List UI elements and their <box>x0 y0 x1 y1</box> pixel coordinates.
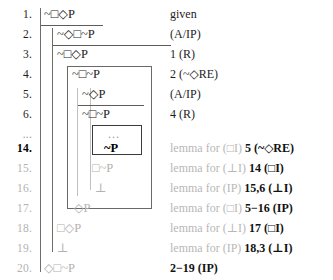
formula: ⊥ <box>95 178 107 198</box>
formula: ~◇P <box>82 84 105 104</box>
justification-lemma-label: lemma for (□I) <box>170 201 242 215</box>
proof-row: 3. ~□◇P 1 (R) <box>0 44 333 64</box>
justification-citation: 15,6 (⊥I) <box>244 181 292 195</box>
formula: □◇P <box>57 218 81 238</box>
justification: lemma for (⊥I) 17 (□I) <box>170 218 284 238</box>
justification: lemma for (⊥I) 14 (□I) <box>170 158 284 178</box>
proof-row: 18. □◇P lemma for (⊥I) 17 (□I) <box>0 218 333 238</box>
justification-citation: 14 (□I) <box>249 161 284 175</box>
line-number: 20. <box>0 258 32 278</box>
justification-citation: (A/IP) <box>170 27 201 41</box>
proof-row: 19. ⊥ lemma for (IP) 18,3 (⊥I) <box>0 238 333 258</box>
justification-citation: 17 (□I) <box>249 221 284 235</box>
line-number: 4. <box>0 64 32 84</box>
line-number: 3. <box>0 44 32 64</box>
proof-row: 1. ~□◇P given <box>0 4 333 24</box>
formula: ~◇□~P <box>57 24 95 44</box>
justification-citation: given <box>170 7 197 21</box>
justification: lemma for (□I) 5−16 (IP) <box>170 198 293 218</box>
proof-row: 16. ⊥ lemma for (IP) 15,6 (⊥I) <box>0 178 333 198</box>
justification-lemma-label: lemma for (⊥I) <box>170 161 246 175</box>
formula: ~□~P <box>72 64 100 84</box>
proof-row: 15. □~P lemma for (⊥I) 14 (□I) <box>0 158 333 178</box>
formula: ~P <box>104 138 118 158</box>
justification: lemma for (□I) 5 (~◇RE) <box>170 138 294 158</box>
justification-lemma-label: lemma for (IP) <box>170 181 241 195</box>
justification-citation: 4 (R) <box>170 107 195 121</box>
justification-citation: 1 (R) <box>170 47 195 61</box>
justification-citation: (A/IP) <box>170 87 201 101</box>
proof-row-highlighted: 14. ~P lemma for (□I) 5 (~◇RE) <box>0 138 333 158</box>
line-number: 5. <box>0 84 32 104</box>
line-number: 17. <box>0 198 32 218</box>
line-number: 18. <box>0 218 32 238</box>
justification-citation: 2−19 (IP) <box>170 261 218 275</box>
justification: 2−19 (IP) <box>170 258 218 278</box>
justification: 4 (R) <box>170 104 195 124</box>
line-number: 15. <box>0 158 32 178</box>
proof-row: 17. ◇P lemma for (□I) 5−16 (IP) <box>0 198 333 218</box>
justification-lemma-label: lemma for (⊥I) <box>170 221 246 235</box>
line-number: 2. <box>0 24 32 44</box>
formula: ~□~P <box>82 104 110 124</box>
formula: ◇□~P <box>44 258 75 278</box>
formula: ⊥ <box>57 238 69 258</box>
proof-diagram: 1. ~□◇P given 2. ~◇□~P (A/IP) 3. ~□◇P 1 … <box>0 0 333 280</box>
justification: 2 (~◇RE) <box>170 64 218 84</box>
proof-row: 2. ~◇□~P (A/IP) <box>0 24 333 44</box>
formula: ~□◇P <box>57 44 88 64</box>
proof-row: 6. ~□~P 4 (R) <box>0 104 333 124</box>
justification-citation: 5−16 (IP) <box>245 201 293 215</box>
justification-citation: 18,3 (⊥I) <box>244 241 292 255</box>
justification: (A/IP) <box>170 84 201 104</box>
justification: 1 (R) <box>170 44 195 64</box>
justification: (A/IP) <box>170 24 201 44</box>
line-number: 16. <box>0 178 32 198</box>
formula: ◇P <box>74 198 91 218</box>
line-number: 19. <box>0 238 32 258</box>
justification: given <box>170 4 197 24</box>
line-number: 14. <box>0 138 32 158</box>
justification: lemma for (IP) 15,6 (⊥I) <box>170 178 293 198</box>
justification-citation: 2 (~◇RE) <box>170 67 218 81</box>
justification: lemma for (IP) 18,3 (⊥I) <box>170 238 293 258</box>
justification-lemma-label: lemma for (□I) <box>170 141 242 155</box>
line-number: 1. <box>0 4 32 24</box>
line-number: 6. <box>0 104 32 124</box>
formula: ~□◇P <box>44 4 75 24</box>
proof-row: 4. ~□~P 2 (~◇RE) <box>0 64 333 84</box>
justification-lemma-label: lemma for (IP) <box>170 241 241 255</box>
justification-citation: 5 (~◇RE) <box>245 141 294 155</box>
formula: □~P <box>92 158 113 178</box>
proof-row: 5. ~◇P (A/IP) <box>0 84 333 104</box>
proof-row: 20. ◇□~P 2−19 (IP) <box>0 258 333 278</box>
